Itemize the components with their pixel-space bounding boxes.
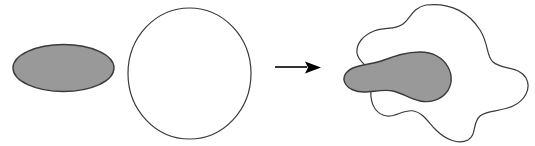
diagram-svg bbox=[0, 0, 535, 146]
gray-ellipse bbox=[13, 45, 114, 92]
right-shape-group bbox=[344, 5, 528, 142]
arrow-head-icon bbox=[305, 62, 321, 74]
white-circle bbox=[128, 8, 251, 139]
left-shape-group bbox=[13, 8, 251, 139]
transformation-arrow bbox=[275, 62, 321, 74]
figure-canvas bbox=[0, 0, 535, 146]
